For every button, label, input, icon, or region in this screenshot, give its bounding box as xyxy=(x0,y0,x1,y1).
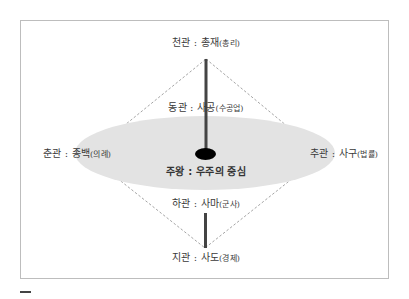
node-lower: 하관 : 사마(군사) xyxy=(172,198,240,211)
node-lower-label: 하관 : 사마 xyxy=(172,198,219,209)
node-upper-sub: (수공업) xyxy=(215,104,243,113)
node-bottom-label: 지관 : 사도 xyxy=(172,252,219,263)
node-top-label: 천관 : 총재 xyxy=(172,37,219,48)
node-top: 천관 : 총재(총리) xyxy=(172,37,240,50)
node-upper: 동관 : 사공(수공업) xyxy=(168,102,243,115)
caption-dash xyxy=(20,291,31,293)
node-left-label: 춘관 : 종백 xyxy=(43,148,90,159)
node-center: 주왕 : 우주의 중심 xyxy=(166,166,246,178)
node-left-sub: (의례) xyxy=(90,150,111,159)
node-upper-label: 동관 : 사공 xyxy=(168,102,215,113)
lower-axis-bar xyxy=(204,213,207,248)
node-left: 춘관 : 종백(의례) xyxy=(43,148,111,161)
node-right: 추관 : 사구(법률) xyxy=(310,148,378,161)
center-dot xyxy=(195,148,216,160)
node-lower-sub: (군사) xyxy=(219,200,240,209)
node-center-label: 주왕 : 우주의 중심 xyxy=(166,166,246,177)
node-bottom-sub: (경제) xyxy=(219,254,240,263)
node-right-label: 추관 : 사구 xyxy=(310,148,357,159)
node-bottom: 지관 : 사도(경제) xyxy=(172,252,240,265)
node-right-sub: (법률) xyxy=(357,150,378,159)
node-top-sub: (총리) xyxy=(219,39,240,48)
